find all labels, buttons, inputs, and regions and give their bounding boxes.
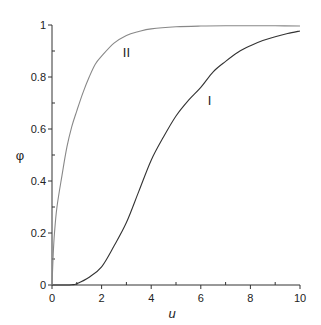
y-tick-label: 0.2 bbox=[31, 227, 46, 239]
x-tick-label: 0 bbox=[49, 292, 55, 304]
y-tick-label: 1 bbox=[40, 19, 46, 31]
curve-label-ii: II bbox=[123, 45, 130, 60]
x-tick-label: 10 bbox=[294, 292, 306, 304]
y-axis-label: φ bbox=[16, 148, 24, 163]
chart: 00.20.40.60.81 0246810 III u φ bbox=[0, 0, 321, 325]
y-tick-label: 0.4 bbox=[31, 175, 46, 187]
y-tick-label: 0 bbox=[40, 279, 46, 291]
y-tick-label: 0.6 bbox=[31, 123, 46, 135]
x-axis-label: u bbox=[168, 306, 175, 321]
x-tick-label: 4 bbox=[148, 292, 154, 304]
y-axis: 00.20.40.60.81 bbox=[31, 19, 55, 291]
curve-label-i: I bbox=[208, 93, 212, 108]
x-tick-label: 6 bbox=[198, 292, 204, 304]
curve-ii bbox=[52, 26, 300, 285]
x-tick-label: 8 bbox=[247, 292, 253, 304]
curve-i bbox=[52, 31, 300, 285]
y-tick-label: 0.8 bbox=[31, 71, 46, 83]
plot-lines: III bbox=[52, 26, 300, 285]
x-axis: 0246810 bbox=[49, 282, 306, 304]
x-tick-label: 2 bbox=[99, 292, 105, 304]
